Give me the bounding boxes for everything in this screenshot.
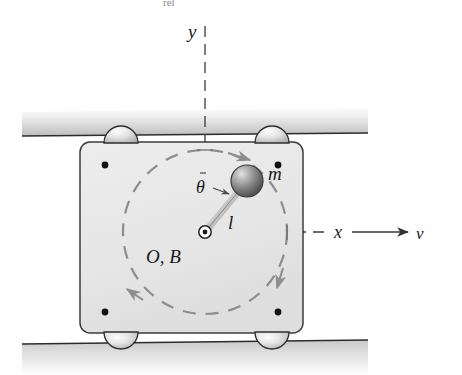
rod-length-label: l (228, 212, 233, 233)
angle-label: θ (196, 177, 205, 197)
corner-dot-bottom-left (102, 309, 109, 316)
mass-label: m (268, 163, 282, 184)
velocity-label: v (416, 224, 424, 243)
physics-diagram-figure: rel y x v (0, 0, 462, 375)
pivot-label: O, B (146, 246, 181, 267)
y-axis-label: y (186, 21, 197, 42)
bottom-rail (22, 340, 368, 375)
x-axis-label: x (333, 222, 342, 242)
mass-sphere (231, 165, 263, 197)
top-rail (22, 108, 368, 136)
diagram-canvas: rel y x v (0, 0, 462, 375)
corner-dot-bottom-right (275, 309, 282, 316)
clipped-header-text: rel (163, 0, 175, 8)
pivot-marker (199, 226, 211, 238)
corner-dot-top-left (102, 162, 109, 169)
